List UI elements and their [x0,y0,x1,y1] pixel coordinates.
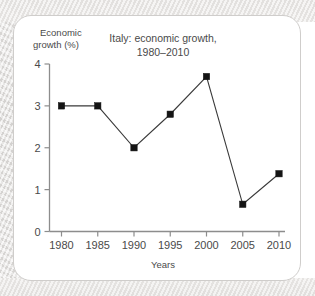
x-tick-label-1985: 1985 [86,239,110,251]
chart-figure: Economic growth (%) Italy: economic grow… [0,0,315,296]
x-tick-label-2000: 2000 [194,239,218,251]
data-point-2005 [240,201,246,207]
x-tick-label-2005: 2005 [231,239,255,251]
y-axis-ticks [45,64,50,232]
chart-title-line1: Italy: economic growth, [109,32,216,44]
x-tick-label-1980: 1980 [49,239,73,251]
y-tick-label-2: 2 [34,142,40,154]
y-tick-label-1: 1 [34,184,40,196]
data-markers [58,73,282,207]
y-axis-title-line2: growth (%) [33,39,79,50]
data-point-2000 [203,73,209,79]
y-tick-label-4: 4 [34,58,40,70]
x-tick-label-2010: 2010 [267,239,291,251]
data-point-1985 [95,103,101,109]
y-axis-title-line1: Economic [40,27,82,38]
data-point-1995 [167,111,173,117]
data-point-1990 [131,145,137,151]
data-series-line [62,77,280,205]
page-root: Economic growth (%) Italy: economic grow… [0,0,315,296]
x-axis-tick-labels: 1980198519901995200020052010 [49,239,291,251]
x-axis-title: Years [151,259,175,270]
x-tick-label-1995: 1995 [158,239,182,251]
data-point-2010 [276,171,282,177]
chart-title-line2: 1980–2010 [137,46,190,58]
data-point-1980 [58,103,64,109]
y-tick-label-0: 0 [34,226,40,238]
y-axis-tick-labels: 01234 [34,58,40,238]
economic-growth-line-chart: Economic growth (%) Italy: economic grow… [0,0,315,296]
x-axis-ticks [62,232,280,237]
x-tick-label-1990: 1990 [122,239,146,251]
y-tick-label-3: 3 [34,100,40,112]
